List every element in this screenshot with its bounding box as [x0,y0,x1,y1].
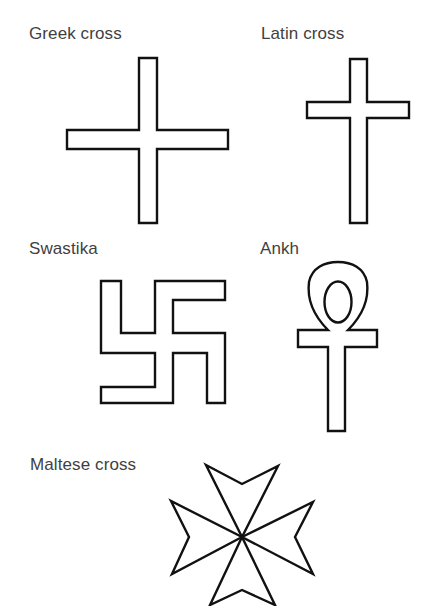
maltese-cross-icon [171,465,313,605]
swastika-icon [101,281,225,403]
symbols-canvas [0,0,428,606]
latin-cross-icon [307,59,409,223]
ankh-icon [298,262,377,431]
greek-cross-icon [67,58,228,223]
